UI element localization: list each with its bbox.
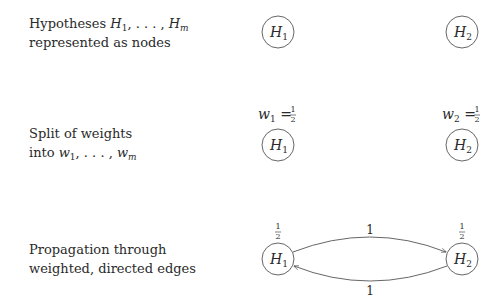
- row2-node-h2: H2: [446, 129, 478, 161]
- row3-node-h2: H2: [446, 243, 478, 275]
- svg-text:2: 2: [275, 232, 280, 241]
- svg-text:H2: H2: [453, 137, 472, 155]
- svg-text:2: 2: [459, 232, 464, 241]
- svg-text:1: 1: [290, 105, 295, 114]
- row2-node-h1: H1: [262, 129, 294, 161]
- row3-node-h1: H1: [262, 243, 294, 275]
- svg-text:w2 =: w2 =: [442, 106, 476, 124]
- svg-text:1: 1: [275, 222, 280, 231]
- row1-node-h1: H1: [262, 16, 294, 48]
- row2-weight-w2: w2 = 1 2: [442, 105, 480, 124]
- svg-text:H2: H2: [453, 24, 472, 42]
- svg-text:H1: H1: [269, 137, 288, 155]
- svg-text:H2: H2: [453, 251, 472, 269]
- svg-text:2: 2: [474, 115, 479, 124]
- svg-text:H1: H1: [269, 24, 288, 42]
- diagram-canvas: H1 H2 w1 = 1 2 w2 = 1 2 H1 H2 1 2 1 2: [0, 0, 502, 303]
- edge-top-weight: 1: [366, 223, 374, 237]
- svg-text:1: 1: [474, 105, 479, 114]
- edge-h1-to-h2: [293, 237, 446, 252]
- svg-text:2: 2: [290, 115, 295, 124]
- edge-h2-to-h1: [294, 266, 447, 281]
- row3-weight-h2: 1 2: [459, 222, 465, 241]
- row3-weight-h1: 1 2: [275, 222, 281, 241]
- svg-text:1: 1: [459, 222, 464, 231]
- row1-node-h2: H2: [446, 16, 478, 48]
- svg-text:w1 =: w1 =: [258, 106, 292, 124]
- svg-text:H1: H1: [269, 251, 288, 269]
- row2-weight-w1: w1 = 1 2: [258, 105, 296, 124]
- edge-bottom-weight: 1: [366, 284, 374, 298]
